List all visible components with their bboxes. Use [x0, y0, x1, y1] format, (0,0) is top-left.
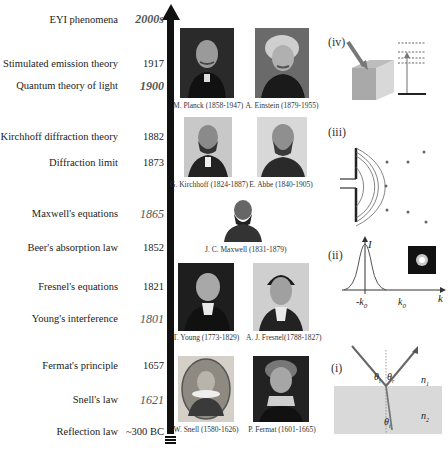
portrait-image — [184, 117, 232, 177]
event-label: Snell's law — [73, 394, 118, 405]
portrait-caption: A. J. Fresnel(1788-1827) — [246, 333, 318, 342]
event-label: EYI phenomena — [49, 14, 118, 25]
portrait-young — [178, 263, 234, 331]
portrait-abbe — [257, 117, 307, 177]
timeline-axis — [167, 16, 174, 434]
event-year: 1882 — [132, 131, 164, 142]
event-label: Young's interference — [32, 313, 118, 324]
diffraction-slit-icon — [340, 130, 448, 220]
event-year: 1900 — [132, 79, 164, 94]
pos-k0-label: k0 — [398, 296, 406, 310]
event-year: 1852 — [132, 242, 164, 253]
portrait-einstein — [255, 28, 309, 98]
portrait-caption: A. Einstein (1879-1955) — [245, 101, 319, 110]
portrait-caption: W. Snell (1580-1626) — [171, 425, 241, 434]
theta-i-label: θi — [374, 371, 381, 384]
intensity-axis-label: I — [368, 238, 372, 250]
portrait-image — [178, 356, 234, 422]
event-year: 1621 — [132, 393, 164, 408]
portrait-image — [220, 196, 266, 242]
event-label: Stimulated emission theory — [3, 58, 118, 69]
portrait-image — [180, 28, 234, 98]
event-year: 1801 — [132, 312, 164, 327]
event-label: Fermat's principle — [42, 360, 118, 371]
axis-break-icon — [165, 436, 176, 446]
refraction-diagram-icon — [334, 340, 448, 440]
portrait-caption: M. Planck (1858-1947) — [173, 101, 243, 110]
portrait-caption: T. Young (1773-1829) — [172, 333, 240, 342]
event-year: 2000s — [132, 12, 164, 27]
event-label: Reflection law — [56, 426, 118, 437]
portrait-caption: P. Fermat (1601-1665) — [246, 425, 318, 434]
event-label: Beer's absorption law — [27, 242, 118, 253]
portrait-image — [255, 28, 309, 98]
event-label: Quantum theory of light — [16, 80, 118, 91]
event-year: 1865 — [132, 207, 164, 222]
event-year: 1873 — [132, 157, 164, 168]
neg-k0-label: -k0 — [356, 296, 367, 310]
event-year: 1821 — [132, 281, 164, 292]
portrait-image — [257, 117, 307, 177]
portrait-caption: J. C. Maxwell (1831-1879) — [205, 245, 281, 254]
portrait-image — [178, 263, 234, 331]
event-year: ~300 BC — [118, 426, 164, 437]
n2-label: n2 — [421, 410, 429, 423]
portrait-caption: G. Kirchhoff (1824-1887) — [170, 180, 246, 189]
theta-r-label: θr — [387, 371, 394, 384]
portrait-maxwell — [220, 196, 266, 242]
k-axis-label: k — [438, 292, 443, 304]
theta-t-label: θt — [384, 416, 391, 429]
stimulated-emission-icon — [340, 30, 448, 110]
portrait-snell — [178, 356, 234, 422]
n1-label: n1 — [421, 374, 429, 387]
portrait-fresnel — [253, 263, 309, 331]
event-label: Maxwell's equations — [32, 208, 118, 219]
portrait-fermat — [253, 356, 309, 422]
event-label: Kirchhoff diffraction theory — [1, 131, 118, 142]
event-year: 1917 — [132, 58, 164, 69]
portrait-kirchhoff — [184, 117, 232, 177]
event-year: 1657 — [132, 360, 164, 371]
portrait-planck — [180, 28, 234, 98]
portrait-caption: E. Abbe (1840-1905) — [248, 180, 314, 189]
event-label: Diffraction limit — [49, 157, 118, 168]
portrait-image — [253, 263, 309, 331]
event-label: Fresnel's equations — [38, 281, 118, 292]
portrait-image — [253, 356, 309, 422]
